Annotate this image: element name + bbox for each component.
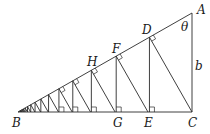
right-angle-mark bbox=[91, 107, 96, 112]
hypotenuse-AB bbox=[18, 13, 192, 112]
perpendicular bbox=[41, 99, 48, 112]
triangle-diagram: A B C D E F G H θ b bbox=[0, 0, 210, 134]
diagram-lines bbox=[18, 13, 192, 112]
perpendicular bbox=[91, 70, 115, 112]
label-E: E bbox=[143, 116, 153, 130]
right-angle-mark bbox=[73, 107, 78, 112]
perpendicular bbox=[31, 105, 35, 112]
label-F: F bbox=[111, 42, 121, 56]
label-D: D bbox=[141, 23, 152, 37]
perpendicular bbox=[59, 89, 72, 112]
label-G: G bbox=[113, 116, 123, 130]
perpendicular bbox=[28, 107, 31, 112]
label-H: H bbox=[86, 55, 98, 69]
perpendicular bbox=[49, 95, 59, 112]
label-B: B bbox=[11, 116, 21, 130]
right-angle-mark bbox=[59, 107, 64, 112]
perpendicular bbox=[149, 37, 192, 112]
label-b: b bbox=[195, 59, 203, 73]
perpendicular bbox=[116, 56, 148, 112]
label-C: C bbox=[188, 116, 197, 130]
perpendicular bbox=[20, 111, 21, 112]
right-angle-mark bbox=[116, 107, 121, 112]
label-A: A bbox=[196, 3, 206, 17]
perpendicular bbox=[35, 102, 41, 112]
right-angle-mark bbox=[149, 107, 154, 112]
label-theta: θ bbox=[181, 20, 189, 34]
